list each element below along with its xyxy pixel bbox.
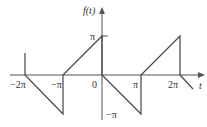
x-tick-label-zero: 0 xyxy=(92,79,97,90)
sawtooth-chart: f(t) t π −π −2π −π 0 π 2π xyxy=(0,0,207,127)
x-axis-label: t xyxy=(199,80,202,91)
y-tick-label-neg-pi: −π xyxy=(106,109,117,120)
y-axis-label: f(t) xyxy=(83,5,96,17)
x-axis-arrow-icon xyxy=(198,72,205,78)
x-tick-label-2pi: 2π xyxy=(168,79,178,90)
x-tick-label-neg-2pi: −2π xyxy=(10,79,26,90)
y-axis-arrow-icon xyxy=(99,7,105,14)
chart-canvas: f(t) t π −π −2π −π 0 π 2π xyxy=(0,0,207,127)
x-tick-label-neg-pi: −π xyxy=(51,79,62,90)
y-tick-label-pi: π xyxy=(90,31,95,42)
x-tick-label-pi: π xyxy=(133,79,138,90)
